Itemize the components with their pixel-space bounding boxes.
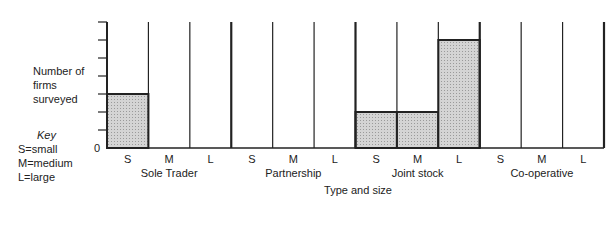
x-axis-label: Type and size [0,183,616,197]
bar-9 [438,40,479,148]
key-title: Key [37,128,56,142]
key-entry-medium: M=medium [18,156,73,170]
y-axis-label: Number of firms surveyed [33,64,93,106]
key-entry-large: L=large [18,170,55,184]
bar-1 [107,94,148,148]
group-label: Co-operative [492,166,592,180]
group-label: Sole Trader [119,166,219,180]
x-tick-label-l: L [533,152,616,166]
bar-7 [356,112,397,148]
group-label: Joint stock [368,166,468,180]
group-label: Partnership [243,166,343,180]
bar-8 [397,112,438,148]
key-entry-small: S=small [18,142,57,156]
